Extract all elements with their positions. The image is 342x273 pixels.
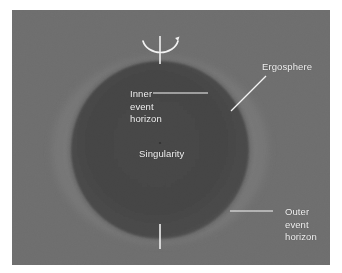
diagram-panel: Inner event horizon Singularity Ergosphe… xyxy=(12,10,330,265)
label-outer-event-horizon-line2: event xyxy=(285,219,317,232)
grain-overlay xyxy=(12,10,330,265)
label-inner-event-horizon-line1: Inner xyxy=(130,88,162,101)
label-outer-event-horizon-line3: horizon xyxy=(285,231,317,244)
label-inner-event-horizon: Inner event horizon xyxy=(130,88,162,126)
label-singularity: Singularity xyxy=(139,148,184,161)
label-outer-event-horizon: Outer event horizon xyxy=(285,206,317,244)
black-hole-diagram-figure: Inner event horizon Singularity Ergosphe… xyxy=(0,0,342,273)
label-inner-event-horizon-line2: event xyxy=(130,101,162,114)
diagram-canvas xyxy=(12,10,330,265)
label-inner-event-horizon-line3: horizon xyxy=(130,113,162,126)
label-outer-event-horizon-line1: Outer xyxy=(285,206,317,219)
label-ergosphere: Ergosphere xyxy=(262,61,312,74)
